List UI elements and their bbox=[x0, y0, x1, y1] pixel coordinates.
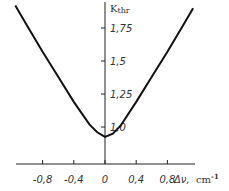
chart: -0,8-0,400,40,8 1,01,251,51,75 Kthr Δν, … bbox=[0, 0, 229, 191]
x-tick-label: 0 bbox=[102, 174, 108, 185]
x-axis-label: Δν, bbox=[173, 174, 190, 185]
x-tick-label: -0,8 bbox=[33, 174, 53, 185]
axes bbox=[16, 2, 195, 164]
x-tick-label: 0,4 bbox=[128, 174, 144, 185]
x-tick-label: 0,8 bbox=[159, 174, 175, 185]
x-tick-label: -0,4 bbox=[64, 174, 84, 185]
y-tick-label: 1,5 bbox=[110, 56, 126, 67]
threshold-curve bbox=[15, 6, 193, 137]
y-tick-label: 1,25 bbox=[110, 89, 132, 100]
y-tick-label: 1,75 bbox=[110, 23, 132, 34]
y-axis-label: Kthr bbox=[110, 3, 130, 15]
x-axis-unit: cm-1 bbox=[196, 172, 219, 185]
